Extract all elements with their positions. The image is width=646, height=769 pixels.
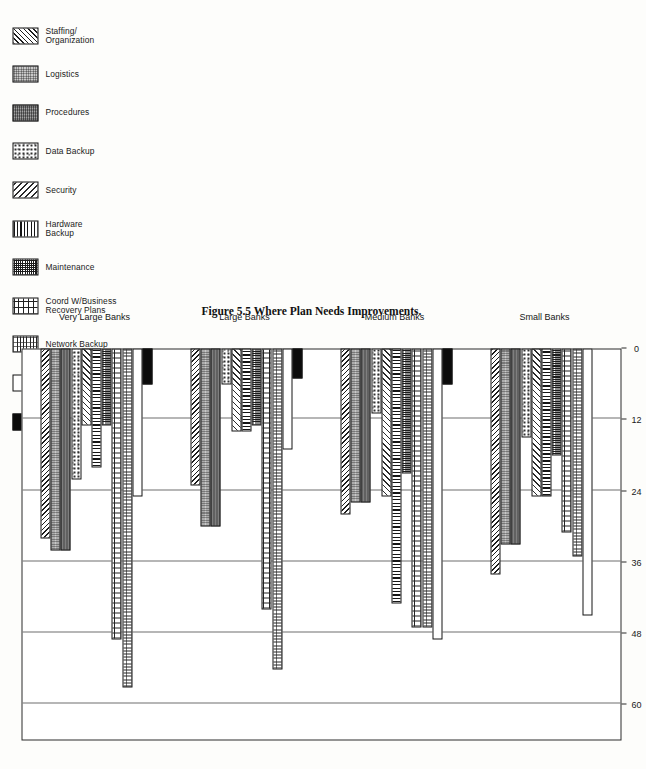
bar-medium-banks-logistics (350, 348, 360, 502)
bar-large-banks-network-backup (272, 348, 282, 669)
legend-item: Data Backup (12, 136, 94, 166)
bar-large-banks-coord-w-business-recovery-plans (261, 348, 271, 609)
bar-large-banks-data-backup (221, 348, 231, 384)
gridline (22, 702, 620, 703)
bar-small-banks-network-backup (572, 348, 582, 556)
bar-very-large-banks-staffing-organization (40, 348, 50, 538)
bar-very-large-banks-other (142, 348, 152, 384)
bar-medium-banks-data-backup (371, 348, 381, 413)
axis-tick-label: 48 (624, 628, 646, 638)
bar-medium-banks-coord-w-business-recovery-plans (411, 348, 421, 627)
bar-medium-banks-testing (432, 348, 442, 639)
bar-large-banks-other (292, 348, 302, 378)
legend-item: Logistics (12, 59, 78, 89)
bar-large-banks-staffing-organization (190, 348, 200, 485)
bar-small-banks-testing (582, 348, 592, 615)
bar-very-large-banks-procedures (60, 348, 70, 550)
chart-legend: Staffing/ OrganizationLogisticsProcedure… (12, 20, 436, 140)
bar-large-banks-hardware-backup (241, 348, 251, 431)
bar-medium-banks-other (442, 348, 452, 384)
legend-item-label: Data Backup (45, 146, 94, 155)
bar-small-banks-staffing-organization (490, 348, 500, 574)
bar-small-banks-data-backup (521, 348, 531, 437)
legend-item: Security (12, 174, 76, 204)
bar-small-banks-maintenance (551, 348, 561, 455)
legend-item-label: Staffing/ Organization (45, 26, 94, 45)
bar-large-banks-logistics (200, 348, 210, 526)
legend-item-label: Network Backup (45, 339, 107, 348)
bar-very-large-banks-security (81, 348, 91, 425)
bar-small-banks-coord-w-business-recovery-plans (561, 348, 571, 532)
bar-small-banks-security (531, 348, 541, 496)
bar-large-banks-procedures (210, 348, 220, 526)
legend-swatch-security (12, 181, 38, 198)
legend-swatch-logistics (12, 65, 38, 82)
figure-caption: Figure 5.5 Where Plan Needs Improvements… (201, 304, 421, 316)
group-label: Very Large Banks (44, 311, 144, 321)
legend-item: Staffing/ Organization (12, 20, 94, 50)
legend-swatch-procedures (12, 104, 38, 121)
bar-very-large-banks-hardware-backup (91, 348, 101, 467)
bar-very-large-banks-testing (132, 348, 142, 496)
bar-medium-banks-hardware-backup (391, 348, 401, 603)
bar-large-banks-testing (282, 348, 292, 449)
legend-item-label: Security (45, 185, 76, 194)
legend-item: Maintenance (12, 252, 94, 282)
legend-swatch-hardware-backup (12, 220, 38, 237)
axis-tick-label: 60 (624, 699, 646, 709)
legend-item-label: Logistics (45, 69, 78, 78)
bar-very-large-banks-maintenance (101, 348, 111, 425)
legend-item-label: Procedures (45, 107, 89, 116)
group-label: Small Banks (494, 311, 594, 321)
axis-tick-label: 12 (624, 414, 646, 424)
bar-large-banks-maintenance (251, 348, 261, 425)
axis-tick-label: 36 (624, 557, 646, 567)
bar-small-banks-logistics (500, 348, 510, 544)
legend-item-label: Hardware Backup (45, 219, 82, 238)
bar-large-banks-security (231, 348, 241, 431)
bar-small-banks-hardware-backup (541, 348, 551, 496)
bar-very-large-banks-data-backup (71, 348, 81, 479)
legend-swatch-staffing-organization (12, 27, 38, 44)
legend-item: Hardware Backup (12, 213, 82, 243)
bar-medium-banks-staffing-organization (340, 348, 350, 514)
bar-very-large-banks-coord-w-business-recovery-plans (111, 348, 121, 639)
legend-item: Procedures (12, 97, 89, 127)
bar-small-banks-procedures (510, 348, 520, 544)
axis-tick-label: 0 (624, 343, 646, 353)
legend-item-label: Maintenance (45, 262, 94, 271)
bar-very-large-banks-network-backup (122, 348, 132, 687)
legend-swatch-maintenance (12, 258, 38, 275)
bar-medium-banks-network-backup (422, 348, 432, 627)
legend-swatch-data-backup (12, 142, 38, 159)
bar-medium-banks-security (381, 348, 391, 496)
bar-very-large-banks-logistics (50, 348, 60, 550)
axis-tick-label: 24 (624, 486, 646, 496)
legend-swatch-coord-business-recovery-plans (12, 297, 38, 314)
bar-medium-banks-maintenance (401, 348, 411, 473)
bar-medium-banks-procedures (360, 348, 370, 502)
